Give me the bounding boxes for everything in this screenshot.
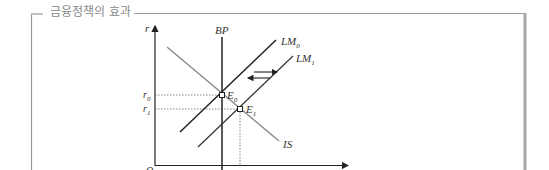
- y-axis-label: r: [145, 22, 150, 34]
- r1-label: r1: [143, 103, 150, 117]
- monetary-policy-diagram: r O BP LM0 LM1 IS E0 E1 r0 r1: [0, 0, 549, 170]
- e1-point: [238, 107, 243, 112]
- e0-point: [220, 93, 225, 98]
- lm1-label: LM1: [295, 52, 315, 67]
- frame-title: 금융정책의 효과: [47, 4, 134, 20]
- bp-label: BP: [215, 24, 229, 36]
- lm0-label: LM0: [280, 35, 300, 50]
- is-label: IS: [282, 138, 293, 150]
- origin-label: O: [146, 165, 153, 170]
- e1-label: E1: [245, 103, 256, 118]
- r0-label: r0: [143, 89, 151, 103]
